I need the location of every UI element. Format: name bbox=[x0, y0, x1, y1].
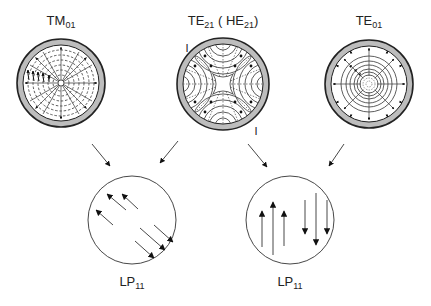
mode-diagram bbox=[0, 0, 431, 306]
arrow-te01-to-lp11-right bbox=[329, 144, 344, 166]
te21-marker-top: I bbox=[185, 42, 188, 54]
lp11-left-pattern bbox=[88, 176, 176, 264]
te21-marker-bottom: I bbox=[254, 125, 257, 137]
label-te21-he21: TE21 ( HE21) bbox=[188, 13, 259, 30]
te01-pattern bbox=[325, 40, 413, 128]
arrow-te21-to-lp11-right bbox=[248, 144, 267, 167]
label-te01: TE01 bbox=[356, 13, 383, 30]
tm01-pattern bbox=[17, 39, 105, 127]
label-lp11-left: LP11 bbox=[119, 274, 144, 291]
transition-arrows bbox=[92, 141, 344, 167]
te21-pattern bbox=[149, 10, 297, 158]
arrow-tm01-to-lp11-left bbox=[92, 144, 110, 166]
label-tm01: TM01 bbox=[47, 13, 76, 30]
label-lp11-right: LP11 bbox=[277, 274, 302, 291]
arrow-te21-to-lp11-left bbox=[160, 141, 178, 163]
lp11-right-pattern bbox=[246, 176, 334, 264]
